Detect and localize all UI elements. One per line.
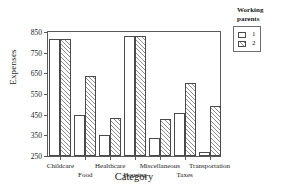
bar-taxes-series-1 xyxy=(174,113,185,156)
x-axis-tick xyxy=(135,156,136,160)
bar-childcare-series-1 xyxy=(49,39,60,156)
legend-item-label: 2 xyxy=(252,40,256,47)
bar-group xyxy=(48,32,73,156)
plot-area: 250350450550650750850ChildcareFoodHealth… xyxy=(47,31,221,157)
legend-item-1[interactable]: 1 xyxy=(238,30,256,39)
x-axis-tick xyxy=(185,156,186,160)
bar-housing-series-2 xyxy=(135,36,146,156)
bar-food-series-2 xyxy=(85,76,96,156)
bar-food-series-1 xyxy=(74,115,85,156)
bar-taxes-series-2 xyxy=(185,83,196,156)
y-axis-tick xyxy=(44,156,48,157)
legend: Working parents 12 xyxy=(233,6,289,52)
x-axis-tick-label: Childcare xyxy=(47,162,74,170)
y-axis-title: Expenses xyxy=(8,32,18,102)
bar-transportation-series-2 xyxy=(210,106,221,156)
x-axis-tick-label: Healthcare xyxy=(95,162,125,170)
legend-title-line1: Working xyxy=(237,6,289,15)
legend-swatch-icon xyxy=(238,32,246,38)
y-axis-tick-label: 450 xyxy=(31,110,42,119)
bar-group xyxy=(73,32,98,156)
y-axis-tick-label: 350 xyxy=(31,131,42,140)
y-axis-tick-label: 650 xyxy=(31,69,42,78)
y-axis-tick-label: 550 xyxy=(31,90,42,99)
x-axis-tick-label: Miscellaneous xyxy=(140,162,180,170)
bar-housing-series-1 xyxy=(124,36,135,156)
y-axis-tick-label: 750 xyxy=(31,48,42,57)
bar-group xyxy=(98,32,123,156)
x-axis-tick xyxy=(110,156,111,160)
y-axis-tick-label: 250 xyxy=(31,152,42,161)
legend-item-2[interactable]: 2 xyxy=(238,39,256,48)
bar-miscellaneous-series-2 xyxy=(160,119,171,156)
x-axis-tick xyxy=(210,156,211,160)
x-axis-title: Category xyxy=(47,171,221,182)
plot-inner: 250350450550650750850ChildcareFoodHealth… xyxy=(48,32,220,156)
bar-transportation-series-1 xyxy=(199,152,210,156)
bar-healthcare-series-1 xyxy=(99,135,110,156)
y-axis-tick-label: 850 xyxy=(31,28,42,37)
x-axis-tick xyxy=(160,156,161,160)
x-axis-tick xyxy=(85,156,86,160)
chart-container: Expenses 250350450550650750850ChildcareF… xyxy=(0,0,294,194)
x-axis-tick-label: Transportation xyxy=(189,162,230,170)
legend-item-label: 1 xyxy=(252,31,256,38)
bar-group xyxy=(147,32,172,156)
bar-healthcare-series-2 xyxy=(110,118,121,156)
x-axis-tick xyxy=(60,156,61,160)
bar-childcare-series-2 xyxy=(60,39,71,156)
legend-box: 12 xyxy=(233,26,261,52)
bar-group xyxy=(172,32,197,156)
bar-miscellaneous-series-1 xyxy=(149,138,160,156)
legend-title-line2: parents xyxy=(237,15,289,24)
bar-group xyxy=(197,32,222,156)
bar-group xyxy=(123,32,148,156)
legend-swatch-icon xyxy=(238,41,246,47)
